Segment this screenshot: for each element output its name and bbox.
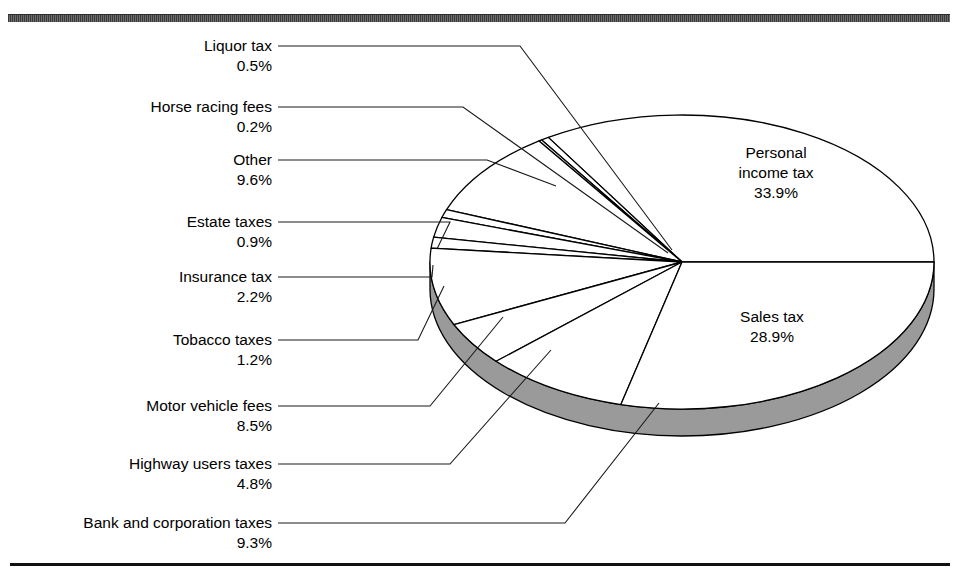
slice-name-personal-income-tax-line1: Personal bbox=[745, 144, 806, 161]
figure-canvas: Liquor tax 0.5% Horse racing fees 0.2% O… bbox=[0, 0, 958, 576]
callout-pct-highway-users-taxes: 4.8% bbox=[129, 474, 272, 494]
callout-name-other: Other bbox=[233, 151, 272, 168]
callout-label-estate-taxes: Estate taxes 0.9% bbox=[187, 212, 272, 252]
callout-name-liquor-tax: Liquor tax bbox=[204, 37, 272, 54]
callout-name-tobacco-taxes: Tobacco taxes bbox=[173, 331, 272, 348]
callout-label-highway-users-taxes: Highway users taxes 4.8% bbox=[129, 454, 272, 494]
slice-label-sales-tax: Sales tax 28.9% bbox=[696, 307, 848, 347]
callout-pct-estate-taxes: 0.9% bbox=[187, 232, 272, 252]
callout-label-motor-vehicle-fees: Motor vehicle fees 8.5% bbox=[146, 396, 272, 436]
callout-label-tobacco-taxes: Tobacco taxes 1.2% bbox=[173, 330, 272, 370]
callout-pct-horse-racing-fees: 0.2% bbox=[151, 117, 272, 137]
leader-line-tobacco-taxes bbox=[278, 286, 444, 340]
callout-name-highway-users-taxes: Highway users taxes bbox=[129, 455, 272, 472]
callout-pct-insurance-tax: 2.2% bbox=[179, 287, 272, 307]
callout-pct-tobacco-taxes: 1.2% bbox=[173, 350, 272, 370]
callout-name-motor-vehicle-fees: Motor vehicle fees bbox=[146, 397, 272, 414]
slice-name-sales-tax: Sales tax bbox=[740, 308, 804, 325]
slice-name-personal-income-tax-line2: income tax bbox=[739, 164, 814, 181]
slice-pct-sales-tax: 28.9% bbox=[750, 328, 794, 345]
slice-pct-personal-income-tax: 33.9% bbox=[754, 184, 798, 201]
callout-name-estate-taxes: Estate taxes bbox=[187, 213, 272, 230]
callout-pct-motor-vehicle-fees: 8.5% bbox=[146, 416, 272, 436]
callout-label-insurance-tax: Insurance tax 2.2% bbox=[179, 267, 272, 307]
callout-label-bank-and-corporation-taxes: Bank and corporation taxes 9.3% bbox=[83, 513, 272, 553]
callout-pct-bank-and-corporation-taxes: 9.3% bbox=[83, 533, 272, 553]
callout-pct-liquor-tax: 0.5% bbox=[204, 56, 272, 76]
callout-pct-other: 9.6% bbox=[233, 170, 272, 190]
pie-geometry bbox=[430, 115, 934, 436]
callout-name-horse-racing-fees: Horse racing fees bbox=[151, 98, 272, 115]
callout-name-bank-and-corporation-taxes: Bank and corporation taxes bbox=[83, 514, 272, 531]
leader-line-insurance-tax bbox=[278, 265, 433, 277]
leader-line-estate-taxes bbox=[278, 222, 450, 249]
callout-label-horse-racing-fees: Horse racing fees 0.2% bbox=[151, 97, 272, 137]
callout-name-insurance-tax: Insurance tax bbox=[179, 268, 272, 285]
callout-label-liquor-tax: Liquor tax 0.5% bbox=[204, 36, 272, 76]
callout-label-other: Other 9.6% bbox=[233, 150, 272, 190]
slice-label-personal-income-tax: Personal income tax 33.9% bbox=[700, 143, 852, 203]
